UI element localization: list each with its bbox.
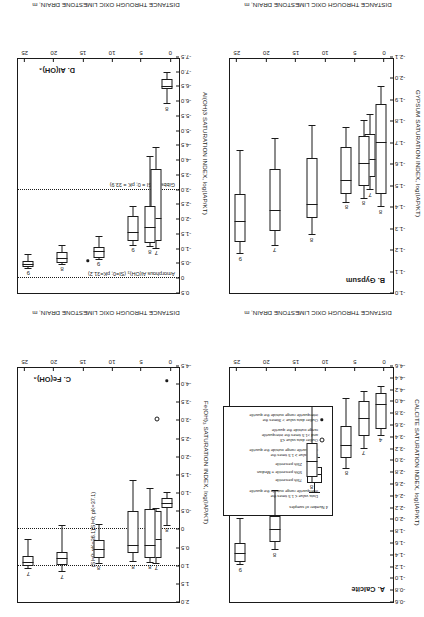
y-axis-tick-label: -1.7 [393,140,405,146]
quartile-box [161,79,172,89]
y-axis-tick-label: 1.5 [179,581,189,587]
y-axis-tick-label: -6.0 [179,98,191,104]
box-whisker: 8 [375,57,387,293]
sample-count-label: 8 [165,106,168,112]
sample-count-label: 8 [310,237,313,243]
y-axis-tick-label: -2.5 [179,436,191,442]
median-line [375,142,386,143]
y-axis-tick-label: -4.5 [179,363,191,369]
quartile-box [128,216,139,241]
panel-a-x-axis-label: DISTANCE THROUGH OXIC LIMESTONE DRAIN, m [212,310,424,317]
outlier-filled-marker [86,259,89,262]
whisker-cap-upper [130,245,137,246]
whisker-cap-upper [146,246,153,247]
whisker-cap-upper [237,564,244,565]
y-axis-tick-label: -1.8 [393,528,405,534]
y-axis-tick-label: -0.5 [179,261,191,267]
quartile-box [128,511,139,553]
x-axis-tick-label: 10 [109,50,116,59]
sample-count-label: 8 [273,552,276,558]
y-axis-tick-label: -5.0 [179,128,191,134]
y-axis-tick-label: -1.5 [179,472,191,478]
whisker-cap-upper [95,563,102,564]
x-axis-tick-label: 15 [80,50,87,59]
y-axis-tick-label: -3.0 [179,187,191,193]
y-axis-tick-label: 0.5 [179,290,189,296]
sample-count-label: 9 [27,270,30,276]
median-line [235,553,246,554]
whisker-cap-upper [343,202,350,203]
quartile-box [341,426,352,458]
y-axis-tick-label: -2.6 [393,481,405,487]
y-axis-tick-label: -1.2 [393,564,405,570]
y-axis-tick-label: -1.0 [179,246,191,252]
y-axis-tick-label: 0.5 [179,545,189,551]
y-axis-tick-label: -2.2 [393,505,405,511]
whisker-cap-upper [95,259,102,260]
whisker-cap-upper [130,561,137,562]
y-axis-tick-label: 0 [179,526,184,532]
y-axis-tick-label: 1.0 [179,563,189,569]
sample-count-label: 8 [165,527,168,533]
x-axis-tick-label: 5 [140,50,143,59]
quartile-box [144,509,155,558]
sample-count-label: 8 [60,266,63,272]
whisker-cap-lower [59,245,66,246]
whisker-cap-upper [146,562,153,563]
panel-c-plot-area: C. Fe(OH)₃ 2.01.51.00.50-0.5-1.0-1.5-2.0… [17,367,180,603]
legend-outlier-filled-glyph [321,419,324,422]
quartile-box [375,393,386,428]
median-line [57,258,68,259]
median-line [306,461,317,462]
quartile-box [306,158,317,218]
whisker-cap-lower [237,518,244,519]
panel-a-plot-area: A. Calcite 4 Number of samplesData value… [229,367,394,603]
y-axis-tick-label: -4.0 [393,398,405,404]
whisker-cap-upper [163,525,170,526]
x-axis-tick-label: 5 [353,50,356,59]
whisker-cap-lower [95,524,102,525]
y-axis-tick-label: -1.5 [179,231,191,237]
legend-outlier-open-glyph [320,438,325,443]
whisker-cap-lower [343,127,350,128]
panel-b-x-axis-label: DISTANCE THROUGH OXIC LIMESTONE DRAIN, m [212,2,424,9]
quartile-box [358,136,369,185]
median-line [23,264,34,265]
median-line [128,545,139,546]
panel-a-calcite: CALCITE SATURATION INDEX, log(IAP/KT) DI… [212,308,424,617]
whisker-cap-lower [377,86,384,87]
quartile-box [341,147,352,194]
figure-rotation-wrapper: CALCITE SATURATION INDEX, log(IAP/KT) DI… [0,0,424,617]
whisker-cap-lower [146,156,153,157]
y-axis-tick-label: -1.0 [179,490,191,496]
quartile-box [269,169,280,231]
y-axis-tick-label: -3.8 [393,410,405,416]
y-axis-tick-label: -5.5 [179,113,191,119]
sample-count-label: 4 [379,437,382,443]
box-whisker: 8 [161,57,173,293]
y-axis-tick-label: 0 [179,275,184,281]
sample-count-label: 7 [362,450,365,456]
y-axis-tick-label: -0.5 [179,508,191,514]
y-axis-tick-label: -2.0 [393,516,405,522]
whisker-cap-lower [163,72,170,73]
sample-count-label: 9 [131,247,134,253]
sample-count-label: 7 [27,571,30,577]
y-axis-tick-label: -3.6 [393,422,405,428]
sample-count-label: 8 [148,564,151,570]
median-line [144,545,155,546]
whisker-cap-lower [271,138,278,139]
median-line [144,227,155,228]
four-panel-box-plot-figure: CALCITE SATURATION INDEX, log(IAP/KT) DI… [0,0,424,617]
y-axis-tick-label: -3.4 [393,434,405,440]
whisker-cap-lower [59,525,66,526]
sample-count-label: 8 [148,249,151,255]
box-whisker: 9 [127,57,139,293]
box-whisker: 8 [306,366,318,602]
y-axis-tick-label: -3.5 [179,399,191,405]
box-whisker: 8 [127,366,139,602]
whisker-cap-lower [308,125,315,126]
median-line [57,558,68,559]
whisker-cap-lower [360,120,367,121]
x-axis-tick-label: 10 [109,359,116,368]
